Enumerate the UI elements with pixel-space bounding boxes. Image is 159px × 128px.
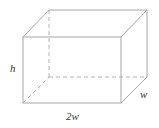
edge-top-left-depth (23, 10, 49, 37)
height-label: h (10, 62, 16, 74)
front-face (23, 37, 121, 103)
prism-diagram: h w 2w (0, 0, 159, 128)
depth-label: w (140, 88, 148, 100)
length-label: 2w (66, 110, 80, 122)
edge-top-right-depth (121, 10, 147, 37)
hidden-edge-bottom-left-depth (23, 77, 49, 103)
